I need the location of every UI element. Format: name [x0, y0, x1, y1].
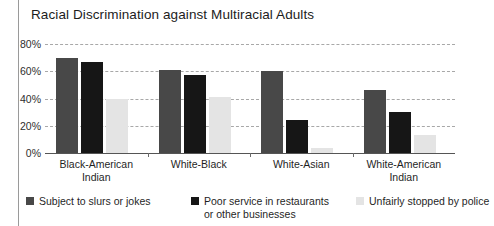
bar[interactable] [364, 90, 386, 153]
legend-swatch-icon-series-1 [26, 197, 34, 205]
y-tick-label-80: 80% [20, 38, 41, 50]
x-axis-tick [353, 153, 354, 157]
y-tick-label-40: 40% [20, 93, 41, 105]
y-tick-label-20: 20% [20, 120, 41, 132]
bar[interactable] [414, 135, 436, 153]
x-axis-category-label: White-American Indian [353, 158, 456, 183]
legend-label-series-2: Poor service in restaurants or other bus… [204, 195, 341, 220]
y-tick-label-60: 60% [20, 65, 41, 77]
legend-item-poor-service[interactable]: Poor service in restaurants or other bus… [191, 195, 341, 220]
bar[interactable] [311, 148, 333, 153]
bar[interactable] [106, 99, 128, 154]
legend-label-series-1: Subject to slurs or jokes [39, 195, 150, 208]
y-axis-tick-labels: 80% 60% 40% 20% 0% [0, 44, 41, 153]
legend-swatch-icon-series-2 [191, 197, 199, 205]
bar[interactable] [81, 62, 103, 153]
x-axis-tick [250, 153, 251, 157]
x-axis-category-label: White-Black [148, 158, 251, 171]
bar[interactable] [184, 75, 206, 153]
legend-swatch-icon-series-3 [356, 197, 364, 205]
x-axis-category-label: White-Asian [250, 158, 353, 171]
bar[interactable] [389, 112, 411, 153]
x-axis-category-labels: Black-American IndianWhite-BlackWhite-As… [45, 158, 455, 188]
bar[interactable] [261, 71, 283, 153]
bar-group [364, 44, 436, 153]
legend-item-subject-to-slurs-or-jokes[interactable]: Subject to slurs or jokes [26, 195, 176, 208]
bar-group [56, 44, 128, 153]
plot-area [45, 44, 455, 153]
bar[interactable] [209, 97, 231, 153]
bar[interactable] [286, 120, 308, 153]
bar[interactable] [56, 58, 78, 153]
chart-legend: Subject to slurs or jokes Poor service i… [26, 195, 466, 223]
y-tick-label-0: 0% [26, 147, 41, 159]
legend-item-unfairly-stopped-by-police[interactable]: Unfairly stopped by police [356, 195, 494, 208]
bar-group [261, 44, 333, 153]
legend-label-series-3: Unfairly stopped by police [369, 195, 489, 208]
bar-group [159, 44, 231, 153]
x-axis-tick [148, 153, 149, 157]
x-axis-category-label: Black-American Indian [45, 158, 148, 183]
bar[interactable] [159, 70, 181, 153]
chart-title: Racial Discrimination against Multiracia… [31, 7, 314, 22]
